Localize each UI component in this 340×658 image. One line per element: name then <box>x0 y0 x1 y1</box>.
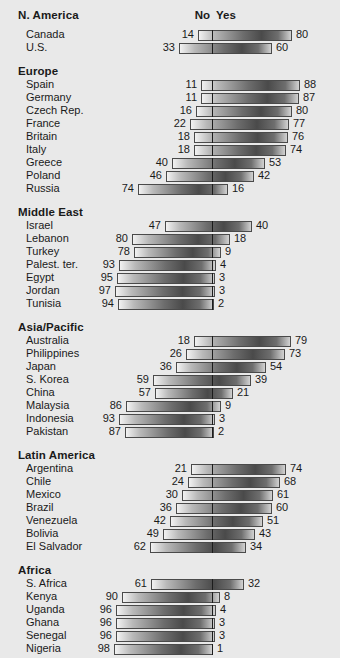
value-no: 36 <box>160 360 172 372</box>
center-divider <box>212 184 213 195</box>
value-yes: 16 <box>232 182 244 194</box>
country-label: Britain <box>26 130 57 142</box>
bar <box>150 542 246 553</box>
bar <box>166 171 254 182</box>
value-no: 97 <box>99 284 111 296</box>
country-label: Spain <box>26 78 54 90</box>
bar <box>194 132 288 143</box>
bar <box>179 43 272 54</box>
center-divider <box>212 592 213 603</box>
diverging-bar-chart: N. America No Yes Canada1480U.S.3360Euro… <box>0 0 340 658</box>
center-divider <box>212 362 213 373</box>
chart-row: El Salvador6234 <box>0 542 340 553</box>
country-label: Uganda <box>26 603 65 615</box>
center-divider <box>212 106 213 117</box>
bar <box>125 427 214 438</box>
center-divider <box>212 132 213 143</box>
center-divider <box>212 221 213 232</box>
country-label: U.S. <box>26 41 47 53</box>
value-yes: 43 <box>259 527 271 539</box>
center-divider <box>212 516 213 527</box>
header-region-title: N. America <box>18 9 79 21</box>
chart-row: Jordan973 <box>0 286 340 297</box>
center-divider <box>212 427 213 438</box>
value-no: 14 <box>182 28 194 40</box>
chart-row: Kenya908 <box>0 592 340 603</box>
bar <box>126 401 221 412</box>
bar <box>163 529 255 540</box>
chart-row: Spain1188 <box>0 80 340 91</box>
chart-row: Australia1879 <box>0 336 340 347</box>
value-no: 47 <box>149 219 161 231</box>
country-label: Ghana <box>26 616 59 628</box>
chart-row: U.S.3360 <box>0 43 340 54</box>
chart-row: Britain1876 <box>0 132 340 143</box>
value-yes: 39 <box>255 373 267 385</box>
country-label: Nigeria <box>26 642 61 654</box>
country-label: Pakistan <box>26 425 68 437</box>
value-no: 98 <box>98 642 110 654</box>
value-no: 36 <box>160 501 172 513</box>
bar <box>190 119 289 130</box>
bar <box>201 80 300 91</box>
value-yes: 8 <box>224 590 230 602</box>
value-no: 96 <box>100 603 112 615</box>
value-yes: 60 <box>276 501 288 513</box>
chart-row: Argentina2174 <box>0 464 340 475</box>
country-label: Greece <box>26 156 62 168</box>
value-yes: 1 <box>217 642 223 654</box>
value-no: 42 <box>154 514 166 526</box>
legend-label-no: No <box>195 9 210 21</box>
value-yes: 3 <box>219 616 225 628</box>
bar <box>194 336 291 347</box>
value-no: 93 <box>103 258 115 270</box>
legend-label-yes: Yes <box>216 9 236 21</box>
bar <box>115 286 215 297</box>
bar <box>134 247 221 258</box>
value-yes: 60 <box>276 41 288 53</box>
center-divider <box>212 464 213 475</box>
chart-row: Turkey789 <box>0 247 340 258</box>
country-label: Indonesia <box>26 412 74 424</box>
center-divider <box>212 171 213 182</box>
value-yes: 80 <box>296 28 308 40</box>
center-divider <box>212 349 213 360</box>
value-yes: 74 <box>290 143 302 155</box>
chart-row: Egypt953 <box>0 273 340 284</box>
center-divider <box>212 247 213 258</box>
value-yes: 87 <box>303 91 315 103</box>
value-yes: 21 <box>237 386 249 398</box>
country-label: Canada <box>26 28 65 40</box>
center-divider <box>212 375 213 386</box>
center-divider <box>212 260 213 271</box>
bar <box>138 184 228 195</box>
value-yes: 3 <box>219 412 225 424</box>
value-yes: 4 <box>220 258 226 270</box>
chart-row: Nigeria981 <box>0 644 340 655</box>
value-yes: 32 <box>248 577 260 589</box>
country-label: Australia <box>26 334 69 346</box>
bar <box>194 145 286 156</box>
country-label: S. Korea <box>26 373 69 385</box>
value-yes: 79 <box>295 334 307 346</box>
bar <box>165 221 252 232</box>
bar <box>170 516 263 527</box>
bar <box>153 375 251 386</box>
center-divider <box>212 542 213 553</box>
value-yes: 73 <box>289 347 301 359</box>
value-no: 22 <box>174 117 186 129</box>
group-heading: Latin America <box>18 449 95 461</box>
center-divider <box>212 490 213 501</box>
value-yes: 9 <box>225 245 231 257</box>
chart-row: Venezuela4251 <box>0 516 340 527</box>
country-label: Jordan <box>26 284 60 296</box>
chart-row: Malaysia869 <box>0 401 340 412</box>
bar <box>176 362 266 373</box>
country-label: China <box>26 386 55 398</box>
bar <box>176 503 272 514</box>
chart-row: Pakistan872 <box>0 427 340 438</box>
value-yes: 4 <box>220 603 226 615</box>
center-divider <box>212 119 213 130</box>
value-yes: 54 <box>270 360 282 372</box>
country-label: Czech Rep. <box>26 104 83 116</box>
